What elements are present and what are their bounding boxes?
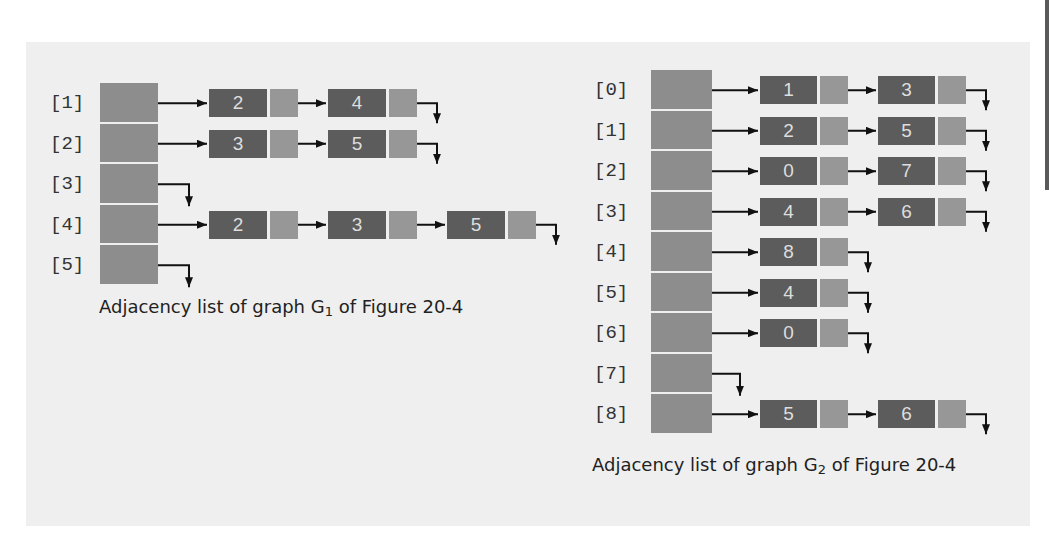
graph_g2-array-cell — [651, 151, 712, 192]
graph_g1-node-link — [270, 211, 298, 239]
graph_g1-node-link — [270, 89, 298, 117]
graph_g2-node-vertex: 5 — [760, 400, 817, 428]
graph_g2-node-vertex: 0 — [760, 319, 817, 347]
graph_g1-node-link — [389, 130, 417, 158]
graph_g1-array-cell — [100, 164, 158, 205]
graph_g2-node-link — [938, 157, 966, 185]
graph_g2-node-link — [820, 117, 848, 145]
graph_g1-node-link — [389, 211, 417, 239]
caption-g2-suffix: of Figure 20-4 — [826, 454, 956, 475]
graph_g1-node-vertex: 2 — [209, 89, 267, 117]
graph_g1-index-label: [3] — [50, 174, 84, 194]
graph_g1-node-vertex: 5 — [447, 211, 505, 239]
graph_g1-node-vertex: 3 — [209, 130, 267, 158]
graph_g2-node-vertex: 0 — [760, 157, 817, 185]
graph_g2-node-vertex: 8 — [760, 238, 817, 266]
graph_g1-node-vertex: 2 — [209, 211, 267, 239]
graph_g2-node-link — [938, 400, 966, 428]
graph_g2-array-cell — [651, 313, 712, 354]
graph_g1-array-cell — [100, 205, 158, 246]
graph_g2-array-cell — [651, 354, 712, 395]
graph_g1-array-cell — [100, 124, 158, 165]
graph_g2-node-link — [820, 279, 848, 307]
graph_g2-node-link — [820, 198, 848, 226]
graph_g1-node-link — [508, 211, 536, 239]
graph_g2-array-cell — [651, 394, 712, 435]
graph_g2-index-label: [1] — [594, 121, 628, 141]
caption-g1: Adjacency list of graph G1 of Figure 20-… — [99, 296, 463, 319]
graph_g2-node-link — [938, 76, 966, 104]
graph_g2-node-vertex: 7 — [878, 157, 935, 185]
caption-g1-subscript: 1 — [325, 304, 333, 319]
graph_g2-array-cell — [651, 111, 712, 152]
graph_g2-node-link — [820, 319, 848, 347]
graph_g2-node-link — [820, 157, 848, 185]
graph_g2-node-link — [938, 198, 966, 226]
graph_g1-index-label: [4] — [50, 215, 84, 235]
graph_g2-node-vertex: 5 — [878, 117, 935, 145]
graph_g2-node-vertex: 4 — [760, 198, 817, 226]
graph_g1-index-label: [1] — [50, 93, 84, 113]
graph_g2-node-link — [820, 76, 848, 104]
graph_g2-array-cell — [651, 273, 712, 314]
graph_g2-node-vertex: 6 — [878, 400, 935, 428]
graph_g2-index-label: [5] — [594, 283, 628, 303]
graph_g2-index-label: [4] — [594, 242, 628, 262]
caption-g1-prefix: Adjacency list of graph G — [99, 296, 325, 317]
graph_g2-node-vertex: 6 — [878, 198, 935, 226]
graph_g1-node-link — [270, 130, 298, 158]
graph_g2-node-vertex: 1 — [760, 76, 817, 104]
caption-g2-prefix: Adjacency list of graph G — [592, 454, 818, 475]
graph_g2-index-label: [7] — [594, 364, 628, 384]
graph_g2-index-label: [6] — [594, 323, 628, 343]
graph_g2-array-cell — [651, 232, 712, 273]
graph_g2-index-label: [8] — [594, 404, 628, 424]
caption-g2: Adjacency list of graph G2 of Figure 20-… — [592, 454, 956, 477]
graph_g2-node-vertex: 3 — [878, 76, 935, 104]
graph_g2-node-vertex: 2 — [760, 117, 817, 145]
graph_g1-array-cell — [100, 245, 158, 286]
graph_g1-index-label: [5] — [50, 255, 84, 275]
caption-g2-subscript: 2 — [818, 462, 826, 477]
graph_g2-node-vertex: 4 — [760, 279, 817, 307]
graph_g1-array-cell — [100, 83, 158, 124]
graph_g2-node-link — [820, 400, 848, 428]
graph_g1-node-vertex: 4 — [328, 89, 386, 117]
graph_g1-index-label: [2] — [50, 134, 84, 154]
graph_g1-node-vertex: 3 — [328, 211, 386, 239]
graph_g1-node-link — [389, 89, 417, 117]
graph_g2-node-link — [820, 238, 848, 266]
graph_g2-index-label: [2] — [594, 161, 628, 181]
graph_g2-array-cell — [651, 70, 712, 111]
caption-g1-suffix: of Figure 20-4 — [333, 296, 463, 317]
graph_g2-index-label: [3] — [594, 202, 628, 222]
graph_g2-index-label: [0] — [594, 80, 628, 100]
adjacency-list-figure: Adjacency list of graph G1 of Figure 20-… — [0, 0, 1049, 556]
graph_g2-array-cell — [651, 192, 712, 233]
graph_g2-node-link — [938, 117, 966, 145]
graph_g1-node-vertex: 5 — [328, 130, 386, 158]
